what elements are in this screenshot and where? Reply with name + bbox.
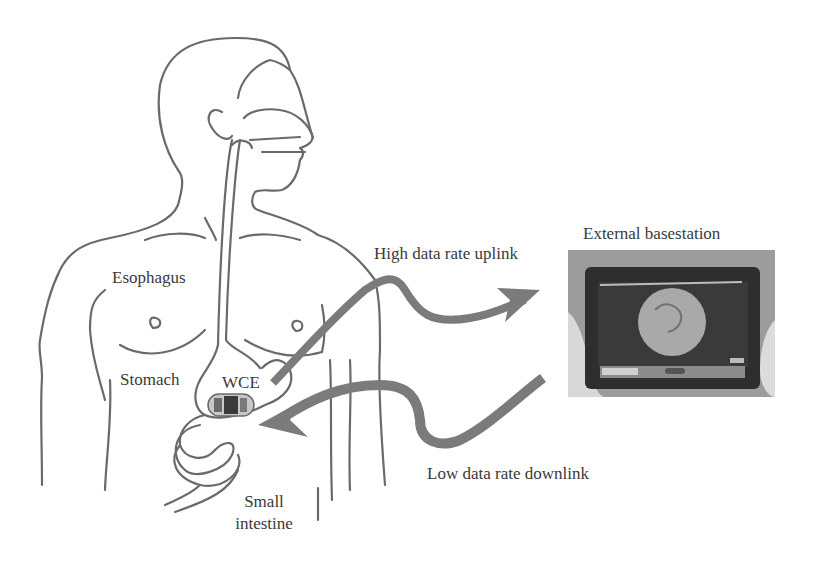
label-small-intestine-line2: intestine [218,514,310,534]
label-uplink: High data rate uplink [374,244,518,264]
label-small-intestine-line1: Small [234,492,294,512]
wce-capsule-icon [208,394,254,416]
human-body-outline [39,38,385,520]
label-wce: WCE [222,373,260,393]
label-external-basestation: External basestation [583,224,720,244]
label-downlink: Low data rate downlink [427,464,589,484]
label-esophagus: Esophagus [112,268,186,288]
uplink-arrow-icon [273,279,540,383]
basestation-tablet-photo [568,250,775,397]
downlink-arrow-icon [258,378,543,443]
label-stomach: Stomach [120,370,180,390]
